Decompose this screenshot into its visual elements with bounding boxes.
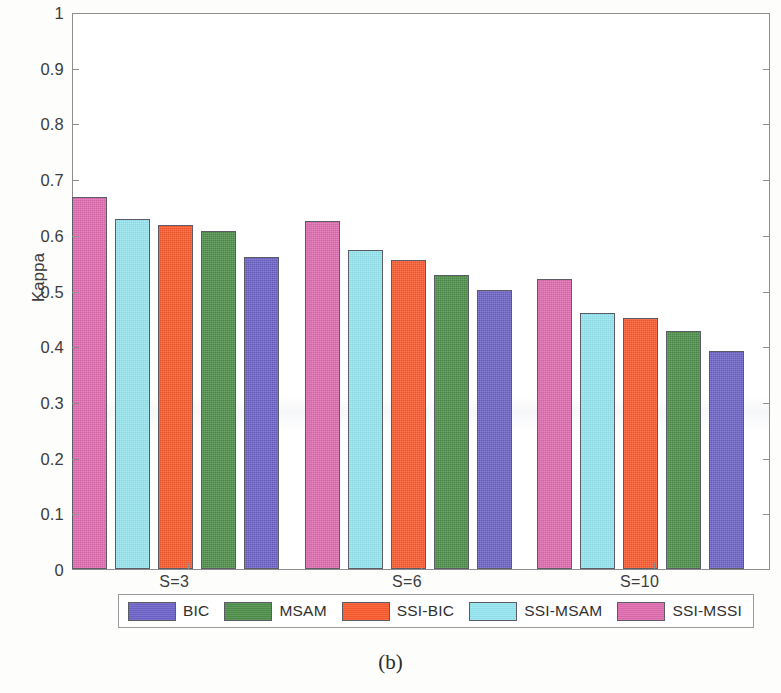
bar-ssi-mssi-s6 bbox=[305, 221, 340, 569]
bar-msam-s10 bbox=[666, 331, 701, 569]
bar-ssi-bic-s6 bbox=[391, 260, 426, 569]
legend-label: MSAM bbox=[279, 602, 326, 620]
y-axis-tick-label: 0.2 bbox=[0, 449, 64, 468]
plot-frame bbox=[72, 13, 770, 570]
y-axis-tick-mark bbox=[763, 180, 770, 181]
bar-ssi-mssi-s3 bbox=[72, 197, 107, 569]
bar-ssi-bic-s3 bbox=[158, 225, 193, 569]
x-axis-tick-mark bbox=[421, 563, 422, 570]
y-axis-tick-mark bbox=[72, 180, 79, 181]
legend-swatch-icon bbox=[469, 602, 517, 621]
legend-entry-bic: BIC bbox=[128, 602, 209, 621]
y-axis-tick-mark bbox=[72, 347, 79, 348]
bar-msam-s3 bbox=[201, 231, 236, 569]
figure-panel: 00.10.20.30.40.50.60.70.80.91 Kappa S=3S… bbox=[0, 0, 781, 693]
legend-swatch-icon bbox=[128, 602, 176, 621]
legend-swatch-icon bbox=[342, 602, 390, 621]
x-axis-tick-mark bbox=[654, 563, 655, 570]
bar-bic-s10 bbox=[709, 351, 744, 569]
y-axis-tick-label: 1 bbox=[0, 4, 64, 23]
y-axis-tick-mark bbox=[763, 69, 770, 70]
y-axis-tick-label: 0.9 bbox=[0, 59, 64, 78]
bar-ssi-msam-s10 bbox=[580, 313, 615, 569]
bar-ssi-bic-s10 bbox=[623, 318, 658, 569]
y-axis-tick-label: 0.4 bbox=[0, 338, 64, 357]
y-axis-tick-mark bbox=[72, 69, 79, 70]
y-axis-tick-mark bbox=[763, 292, 770, 293]
y-axis-tick-mark bbox=[763, 347, 770, 348]
y-axis-tick-mark bbox=[763, 514, 770, 515]
x-axis-tick-label: S=6 bbox=[347, 573, 467, 591]
y-axis-tick-mark bbox=[72, 514, 79, 515]
bar-bic-s3 bbox=[244, 257, 279, 569]
figure-caption: (b) bbox=[0, 650, 781, 675]
y-axis-tick-mark bbox=[763, 459, 770, 460]
y-axis-tick-mark bbox=[72, 459, 79, 460]
legend-label: SSI-MSSI bbox=[672, 602, 742, 620]
bar-msam-s6 bbox=[434, 275, 469, 569]
y-axis-tick-label: 0.3 bbox=[0, 393, 64, 412]
y-axis-label: Kappa bbox=[29, 218, 48, 338]
y-axis-tick-mark bbox=[72, 124, 79, 125]
y-axis-tick-mark bbox=[763, 403, 770, 404]
legend-label: SSI-MSAM bbox=[524, 602, 602, 620]
legend-entry-ssi-mssi: SSI-MSSI bbox=[617, 602, 742, 621]
y-axis-tick-mark bbox=[72, 292, 79, 293]
y-axis-tick-label: 0.8 bbox=[0, 115, 64, 134]
x-axis-tick-label: S=10 bbox=[580, 573, 700, 591]
x-axis-tick-mark bbox=[188, 563, 189, 570]
chart-legend: BICMSAMSSI-BICSSI-MSAMSSI-MSSI bbox=[118, 594, 754, 628]
legend-label: BIC bbox=[183, 602, 209, 620]
bar-ssi-msam-s3 bbox=[115, 219, 150, 569]
y-axis-tick-label: 0.7 bbox=[0, 171, 64, 190]
legend-label: SSI-BIC bbox=[397, 602, 454, 620]
legend-entry-ssi-bic: SSI-BIC bbox=[342, 602, 454, 621]
legend-entry-msam: MSAM bbox=[224, 602, 326, 621]
y-axis-tick-label: 0 bbox=[0, 561, 64, 580]
legend-swatch-icon bbox=[224, 602, 272, 621]
bar-ssi-mssi-s10 bbox=[537, 279, 572, 569]
legend-swatch-icon bbox=[617, 602, 665, 621]
x-axis-tick-label: S=3 bbox=[114, 573, 234, 591]
y-axis-tick-mark bbox=[72, 236, 79, 237]
bar-ssi-msam-s6 bbox=[348, 250, 383, 569]
y-axis-tick-mark bbox=[763, 124, 770, 125]
bar-bic-s6 bbox=[477, 290, 512, 569]
y-axis-tick-mark bbox=[763, 236, 770, 237]
y-axis-tick-mark bbox=[72, 403, 79, 404]
y-axis-tick-label: 0.1 bbox=[0, 505, 64, 524]
legend-entry-ssi-msam: SSI-MSAM bbox=[469, 602, 602, 621]
